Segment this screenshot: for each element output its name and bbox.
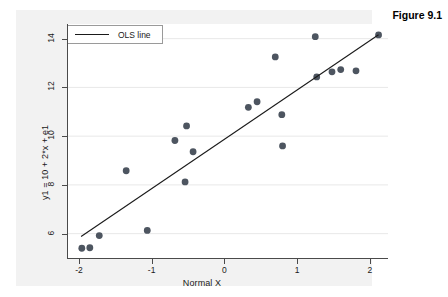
legend-item-label: OLS line: [118, 30, 151, 40]
x-tick-mark: [152, 259, 153, 264]
data-point: [190, 148, 197, 155]
x-tick-label: 2: [362, 265, 378, 275]
data-point: [312, 33, 319, 40]
data-point: [245, 104, 252, 111]
data-point: [272, 54, 279, 61]
y-tick-label: 12: [46, 78, 56, 94]
x-tick-label: -2: [71, 265, 87, 275]
data-point: [183, 122, 190, 129]
x-tick-mark: [297, 259, 298, 264]
graph-region: 68101214 -2-1012 y1 = 10 + 2*x + e1 Norm…: [16, 10, 372, 286]
legend-line-swatch: [75, 34, 109, 35]
data-point: [86, 244, 93, 251]
data-point: [279, 142, 286, 149]
data-point: [182, 179, 189, 186]
data-point: [144, 227, 151, 234]
y-tick-mark: [62, 136, 67, 137]
y-axis-title: y1 = 10 + 2*x + e1: [40, 125, 50, 200]
data-point: [278, 111, 285, 118]
y-tick-mark: [62, 185, 67, 186]
y-tick-label: 14: [46, 30, 56, 46]
data-point: [123, 167, 130, 174]
plot-region: [68, 24, 388, 258]
data-point: [353, 67, 360, 74]
y-tick-mark: [62, 39, 67, 40]
x-tick-label: -1: [144, 265, 160, 275]
x-tick-label: 1: [289, 265, 305, 275]
data-point: [329, 68, 336, 75]
data-point: [78, 245, 85, 252]
data-point: [254, 98, 261, 105]
y-axis-line: [67, 24, 68, 258]
data-point: [172, 137, 179, 144]
x-tick-mark: [79, 259, 80, 264]
chart-legend: OLS line: [67, 25, 163, 44]
figure-panel: 68101214 -2-1012 y1 = 10 + 2*x + e1 Norm…: [0, 0, 448, 297]
y-tick-mark: [62, 234, 67, 235]
scatter-plot-svg: [68, 24, 388, 258]
data-point: [96, 232, 103, 239]
data-point: [337, 66, 344, 73]
x-tick-label: 0: [216, 265, 232, 275]
figure-caption: Figure 9.1: [392, 9, 442, 21]
x-tick-mark: [224, 259, 225, 264]
y-tick-mark: [62, 87, 67, 88]
x-axis-title: Normal X: [16, 278, 388, 288]
y-tick-label: 6: [46, 225, 56, 241]
x-tick-mark: [370, 259, 371, 264]
x-axis-line: [67, 258, 388, 259]
